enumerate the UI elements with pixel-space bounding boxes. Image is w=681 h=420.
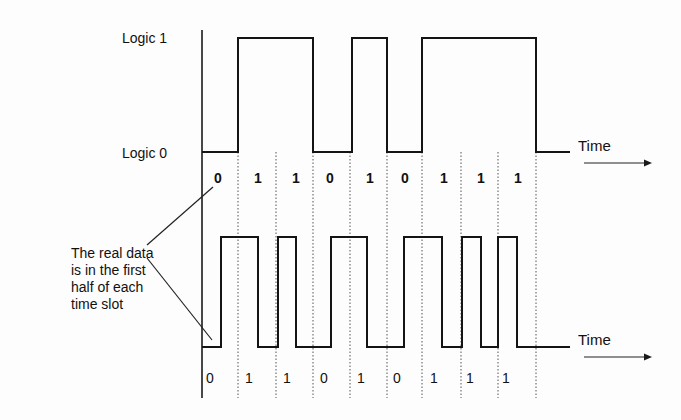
bit-label: 0 <box>214 170 222 186</box>
bit-label: 0 <box>326 170 334 186</box>
arrowhead-top-icon <box>644 160 652 167</box>
annotation-line-1: The real data <box>71 245 154 261</box>
bit-label: 1 <box>477 170 485 186</box>
logic-0-label: Logic 0 <box>122 145 167 161</box>
bit-label: 1 <box>283 370 291 386</box>
annotation-line-3: half of each <box>71 279 143 295</box>
bit-label: 0 <box>320 370 328 386</box>
bit-label: 1 <box>440 170 448 186</box>
bit-label: 1 <box>357 370 365 386</box>
slot-divider-lines <box>238 152 536 398</box>
bit-label: 1 <box>254 170 262 186</box>
bit-label: 0 <box>393 370 401 386</box>
logic-1-label: Logic 1 <box>122 30 167 46</box>
bit-label: 1 <box>245 370 253 386</box>
bit-label: 1 <box>292 170 300 186</box>
bottom-bit-labels: 011010111 <box>206 370 510 386</box>
annotation-line-2: is in the first <box>71 262 146 278</box>
nrz-waveform <box>202 38 570 152</box>
arrowhead-bottom-icon <box>644 354 652 361</box>
rz-waveform <box>202 237 570 347</box>
callout-line-upper <box>147 187 213 245</box>
bit-label: 1 <box>514 170 522 186</box>
encoding-diagram: Logic 1 Logic 0 Time Time The real data … <box>0 0 681 420</box>
diagram-canvas: Logic 1 Logic 0 Time Time The real data … <box>0 0 681 420</box>
bit-label: 1 <box>502 370 510 386</box>
bit-label: 1 <box>366 170 374 186</box>
annotation-line-4: time slot <box>71 296 123 312</box>
time-label-top: Time <box>578 137 611 154</box>
top-bit-labels: 011010111 <box>214 170 522 186</box>
bit-label: 1 <box>466 370 474 386</box>
time-label-bottom: Time <box>578 331 611 348</box>
bit-label: 1 <box>430 370 438 386</box>
annotation-text: The real data is in the first half of ea… <box>71 245 154 312</box>
bit-label: 0 <box>206 370 214 386</box>
bit-label: 0 <box>401 170 409 186</box>
